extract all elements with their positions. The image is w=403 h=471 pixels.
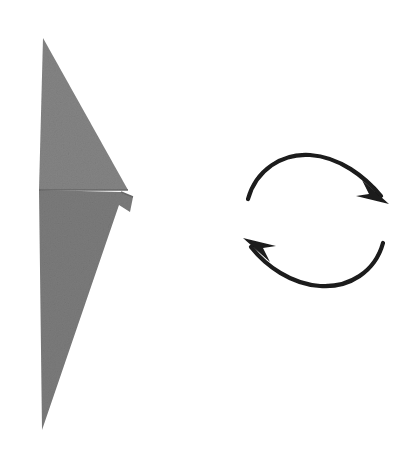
origami-diagram-svg: [0, 0, 403, 471]
diagram-canvas: Folded paper shape Rotate clockwise: [0, 0, 403, 471]
